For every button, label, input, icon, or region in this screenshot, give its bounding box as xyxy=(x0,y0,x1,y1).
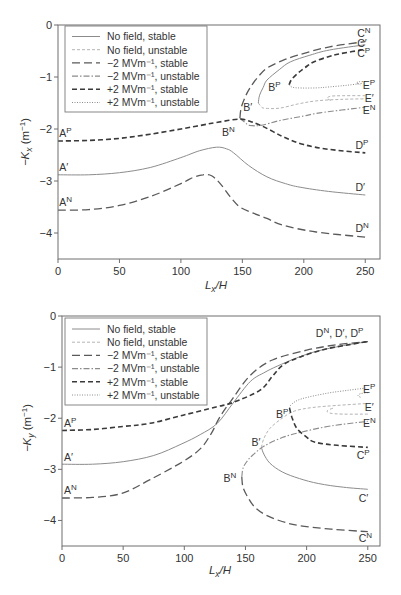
point-label-text: A xyxy=(59,196,66,208)
curve-neg-unstable-segment-0 xyxy=(240,107,365,126)
point-label: BN xyxy=(222,125,235,138)
curve-pos-unstable-segment-0 xyxy=(289,83,363,88)
x-tick-label: 50 xyxy=(113,265,125,277)
y-tick-label: 0 xyxy=(50,310,56,322)
point-label: A′ xyxy=(64,451,73,463)
point-label-text: E xyxy=(363,79,370,91)
x-axis-label: Lx/H xyxy=(205,279,228,294)
point-label: AN xyxy=(64,483,77,496)
y-tick-label: −4 xyxy=(43,514,56,526)
point-label-text: B xyxy=(276,408,283,420)
curve-nf-stable-segment-1 xyxy=(261,447,367,489)
point-label: D′ xyxy=(355,181,365,193)
point-label-superscript: P xyxy=(370,382,375,391)
figure: 0−1−2−3−4050100150200250Lx/H−Kx (m−1)No … xyxy=(0,0,401,595)
legend-label: −2 MVm⁻¹, unstable xyxy=(107,363,200,374)
point-label: BN xyxy=(223,471,236,484)
x-tick-label: 50 xyxy=(117,552,129,564)
y-tick-label: −2 xyxy=(43,412,56,424)
legend-label: +2 MVm⁻¹, unstable xyxy=(107,97,200,108)
curve-neg-stable-segment-1 xyxy=(242,477,368,532)
y-axis-label: −Kx (m−1) xyxy=(18,118,34,166)
legend-label: +2 MVm⁻¹, stable xyxy=(107,84,188,95)
legend-label: No field, unstable xyxy=(107,45,188,56)
y-axis-label-main: −K xyxy=(21,436,33,452)
point-label-text: B xyxy=(268,81,275,93)
point-label-superscript: P xyxy=(283,407,288,416)
chart-panel-ky: 0−1−2−3−4050100150200250Lx/H−Ky (m−1)No … xyxy=(20,310,380,579)
y-axis-label-unit: (m xyxy=(21,417,33,434)
point-label: AP xyxy=(64,416,76,429)
x-tick-label: 150 xyxy=(236,552,254,564)
point-label-text: E xyxy=(363,383,370,395)
point-label: BP xyxy=(268,80,280,93)
curve-nf-stable-segment-1 xyxy=(258,45,365,103)
y-tick-label: −1 xyxy=(43,361,56,373)
point-label-text: E xyxy=(363,417,370,429)
x-tick-label: 200 xyxy=(295,265,313,277)
x-tick-label: 100 xyxy=(175,552,193,564)
y-tick-label: −3 xyxy=(43,463,56,475)
curve-pos-unstable-segment-0 xyxy=(290,388,366,408)
point-label-superscript: N xyxy=(66,195,72,204)
point-label-text: B xyxy=(222,126,229,138)
point-label: A′ xyxy=(59,161,68,173)
y-axis-label-close: ) xyxy=(21,404,33,408)
point-label: EP xyxy=(363,78,375,91)
point-label-text: B xyxy=(223,472,230,484)
x-axis-label-rest: /H xyxy=(219,564,232,576)
y-tick-label: −1 xyxy=(39,71,52,83)
point-label-superscript: N xyxy=(370,103,376,112)
y-tick-label: −2 xyxy=(39,123,52,135)
curve-nf-stable-segment-0 xyxy=(58,147,365,195)
legend-label: −2 MVm⁻¹, stable xyxy=(107,350,188,361)
curve-nf-unstable-segment-1 xyxy=(327,408,368,414)
point-label: C′ xyxy=(359,492,369,504)
point-label-superscript: P xyxy=(71,416,76,425)
point-label-superscript: N xyxy=(363,221,369,230)
y-axis-label-unit: (m xyxy=(19,131,31,148)
point-label-superscript: P xyxy=(66,126,71,135)
point-label-superscript: P xyxy=(370,78,375,87)
point-label-text: A′ xyxy=(59,161,68,173)
point-label-text: D′ xyxy=(355,181,365,193)
point-label-text: C′ xyxy=(359,492,369,504)
x-tick-label: 250 xyxy=(356,265,374,277)
point-label-superscript: P xyxy=(365,46,370,55)
curve-nf-unstable-segment-0 xyxy=(258,99,365,109)
point-label-text: A xyxy=(59,127,66,139)
legend-label: −2 MVm⁻¹, unstable xyxy=(107,71,200,82)
curve-neg-stable-segment-0 xyxy=(58,175,365,238)
point-label: DN xyxy=(355,221,369,234)
y-axis-label-main: −K xyxy=(19,150,31,166)
x-tick-label: 250 xyxy=(359,552,377,564)
point-label-superscript: P xyxy=(364,448,369,457)
y-tick-label: −4 xyxy=(39,227,52,239)
point-label: DP xyxy=(355,138,368,151)
curve-pos-stable-segment-1 xyxy=(289,49,365,84)
legend-label: +2 MVm⁻¹, stable xyxy=(107,377,188,388)
point-label-superscript: N xyxy=(229,125,235,134)
point-label-text: E xyxy=(363,104,370,116)
point-label: CN xyxy=(359,531,373,544)
point-label-superscript: N xyxy=(71,483,77,492)
chart-panel-kx: 0−1−2−3−4050100150200250Lx/H−Kx (m−1)No … xyxy=(18,19,380,294)
legend-label: No field, stable xyxy=(107,31,176,42)
point-label-superscript: N xyxy=(366,531,372,540)
point-label-superscript: N xyxy=(365,26,371,35)
point-label: CP xyxy=(357,448,370,461)
legend: No field, stableNo field, unstable−2 MVm… xyxy=(65,26,207,112)
point-label: E′ xyxy=(365,401,374,413)
point-label: EP xyxy=(363,382,375,395)
point-label: EN xyxy=(363,416,376,429)
point-label: AP xyxy=(59,126,71,139)
y-axis-label: −Ky (m−1) xyxy=(20,404,36,452)
legend-label: No field, stable xyxy=(107,324,176,335)
point-label: B′ xyxy=(243,101,252,113)
point-label-superscript: P xyxy=(363,138,368,147)
y-tick-label: 0 xyxy=(46,19,52,31)
point-label-superscript: N xyxy=(230,471,236,480)
point-label-text: A xyxy=(64,484,71,496)
legend: No field, stableNo field, unstable−2 MVm… xyxy=(65,318,207,405)
point-label: B′ xyxy=(252,436,261,448)
